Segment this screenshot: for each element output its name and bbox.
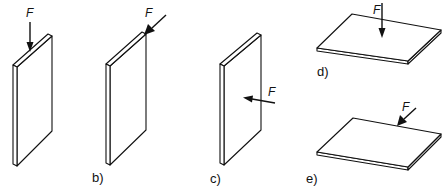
plate-d-horizontal xyxy=(317,14,441,64)
panel-e: F e) xyxy=(306,100,441,186)
panel-label-b: b) xyxy=(92,170,104,185)
plate-e-horizontal xyxy=(317,118,441,170)
plate-a-vertical xyxy=(13,34,52,166)
panel-a: F xyxy=(13,6,52,166)
panel-b: F b) xyxy=(92,6,166,185)
plate-loading-figure: F F b) F c) xyxy=(0,0,444,193)
panel-label-d: d) xyxy=(317,64,329,79)
panel-d: F d) xyxy=(317,3,441,79)
panel-c: F c) xyxy=(210,33,276,186)
force-label-b: F xyxy=(145,6,153,20)
plate-b-vertical xyxy=(106,32,146,165)
force-label-c: F xyxy=(268,85,276,99)
panel-label-c: c) xyxy=(210,171,221,186)
force-label-e: F xyxy=(402,100,410,114)
panel-label-e: e) xyxy=(306,171,318,186)
force-label-d: F xyxy=(373,3,381,17)
force-label-a: F xyxy=(26,6,34,20)
